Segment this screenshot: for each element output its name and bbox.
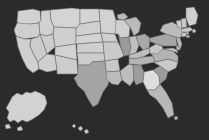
state-wa[interactable]: Washington [17,9,41,25]
state-shape-wy[interactable] [53,27,76,47]
state-ar[interactable]: Arkansas [105,59,120,72]
state-shape-al[interactable] [133,65,144,85]
state-shape-nh[interactable] [181,18,187,28]
state-al[interactable]: Alabama [133,65,144,85]
us-map-svg: WashingtonOregonCaliforniaNevadaIdahoMon… [0,0,209,140]
state-shape-wa[interactable] [17,9,41,25]
us-choropleth-map: WashingtonOregonCaliforniaNevadaIdahoMon… [0,0,209,140]
state-shape-ks[interactable] [77,42,104,53]
state-nh[interactable]: New Hampshire [181,18,187,28]
state-shape-ma-part-2[interactable] [192,29,196,33]
state-mt[interactable]: Montana [50,8,80,28]
state-shape-mt[interactable] [50,8,80,28]
state-ks[interactable]: Kansas [77,42,104,53]
state-shape-fl-part-2[interactable] [174,116,178,120]
state-wy[interactable]: Wyoming [53,27,76,47]
state-shape-ar[interactable] [105,59,120,72]
